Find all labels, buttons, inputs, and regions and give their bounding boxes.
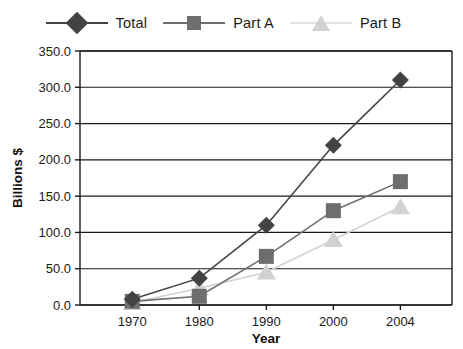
x-tick-label: 1990 <box>252 314 281 329</box>
diamond-marker-icon <box>191 270 208 287</box>
x-axis-title: Year <box>252 331 281 346</box>
y-tick-label: 150.0 <box>38 189 71 204</box>
y-axis-ticks: 0.050.0100.0150.0200.0250.0300.0350.0 <box>38 44 80 313</box>
x-tick-label: 2004 <box>386 314 415 329</box>
plot-area-wrapper: 0.050.0100.0150.0200.0250.0300.0350.0 19… <box>0 0 463 349</box>
y-tick-label: 50.0 <box>46 261 71 276</box>
x-tick-label: 1970 <box>118 314 147 329</box>
triangle-marker-icon <box>312 15 330 31</box>
y-axis-title: Billions $ <box>10 148 25 209</box>
data-series-layer <box>123 72 410 310</box>
y-tick-label: 300.0 <box>38 80 71 95</box>
y-tick-label: 0.0 <box>53 298 71 313</box>
square-marker-icon <box>326 203 341 218</box>
square-marker-icon <box>393 174 408 189</box>
plot-svg: 0.050.0100.0150.0200.0250.0300.0350.0 19… <box>0 0 463 349</box>
y-tick-label: 200.0 <box>38 152 71 167</box>
square-marker-icon <box>192 289 207 304</box>
y-tick-label: 350.0 <box>38 44 71 59</box>
square-marker-icon <box>187 16 201 30</box>
series-line-part-a <box>132 182 400 302</box>
x-tick-label: 1980 <box>185 314 214 329</box>
x-axis-ticks: 19701980199020002004 <box>118 305 415 329</box>
square-marker-icon <box>259 249 274 264</box>
triangle-marker-icon <box>257 264 276 280</box>
chart-container: Total Part A Part B 0.050.0100.0150.0200… <box>0 0 463 349</box>
y-tick-label: 250.0 <box>38 116 71 131</box>
triangle-marker-icon <box>324 231 343 247</box>
triangle-marker-icon <box>391 198 410 214</box>
y-tick-label: 100.0 <box>38 225 71 240</box>
x-tick-label: 2000 <box>319 314 348 329</box>
